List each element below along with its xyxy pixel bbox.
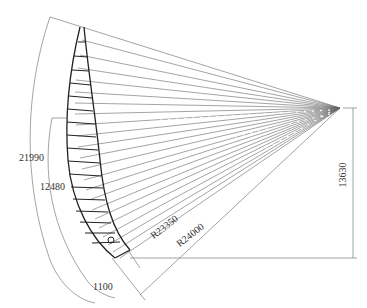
height-label: 13630 (338, 163, 348, 188)
blade-drawing (0, 0, 367, 308)
arc-outer-label: 21990 (19, 153, 44, 163)
dimension-lines (30, 17, 357, 303)
blade-outline (67, 27, 130, 258)
arc-inner-label: 12480 (40, 182, 65, 192)
radial-lines (50, 17, 340, 295)
arc-root-label: 1100 (93, 282, 113, 292)
station-ticks (67, 42, 120, 243)
white-dashes (160, 110, 330, 170)
